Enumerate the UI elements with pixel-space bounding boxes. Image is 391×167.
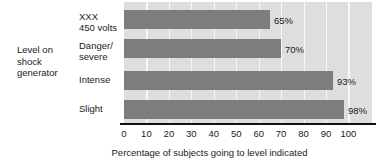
x-tick-90: 90 (321, 128, 332, 139)
value-label-slight: 98% (348, 105, 367, 116)
value-label-xxx-450-volts: 65% (274, 15, 293, 26)
plot-area (124, 2, 372, 123)
x-axis-title: Percentage of subjects going to level in… (0, 147, 391, 159)
category-label-danger-severe: Danger/ severe (79, 40, 123, 63)
bar-slight (124, 100, 344, 119)
bar-xxx-450-volts (124, 10, 270, 29)
category-label-slight: Slight (79, 103, 123, 114)
x-tick-10: 10 (141, 128, 152, 139)
value-label-intense: 93% (337, 76, 356, 87)
x-tick-40: 40 (209, 128, 220, 139)
x-tick-70: 70 (276, 128, 287, 139)
x-tick-80: 80 (298, 128, 309, 139)
x-tick-60: 60 (253, 128, 264, 139)
x-axis-line (120, 123, 376, 125)
bar-intense (124, 71, 333, 90)
x-tick-0: 0 (121, 128, 126, 139)
x-tick-20: 20 (164, 128, 175, 139)
x-tick-50: 50 (231, 128, 242, 139)
y-axis-title: Level on shock generator (17, 44, 79, 79)
bar-danger-severe (124, 39, 281, 58)
value-label-danger-severe: 70% (285, 44, 304, 55)
bar-chart: Level on shock generator XXX 450 volts D… (0, 0, 391, 167)
category-label-xxx-450-volts: XXX 450 volts (79, 11, 123, 34)
category-label-intense: Intense (79, 74, 123, 85)
x-tick-30: 30 (186, 128, 197, 139)
x-tick-100: 100 (340, 128, 356, 139)
